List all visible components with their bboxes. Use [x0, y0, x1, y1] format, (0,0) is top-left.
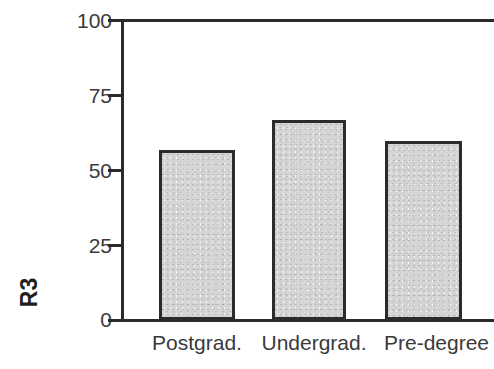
plot-area	[124, 21, 494, 320]
y-tick-label-75: 75	[48, 85, 112, 106]
bar-pre-degree	[385, 141, 462, 320]
y-tick-label-25: 25	[48, 235, 112, 256]
y-tick-label-100: 100	[48, 10, 112, 31]
x-tick-label-undergrad: Undergrad.	[248, 330, 380, 356]
x-tick-label-postgrad: Postgrad.	[136, 330, 258, 356]
bar-chart-figure: R3 100 75 50 25 0 Postgrad. Undergrad. P…	[0, 0, 494, 369]
y-tick-label-0: 0	[48, 309, 112, 330]
y-tick-label-50: 50	[48, 160, 112, 181]
x-axis-tick-labels: Postgrad. Undergrad. Pre-degree	[124, 330, 494, 366]
x-tick-label-pre-degree: Pre-degree	[369, 330, 494, 356]
bar-undergrad	[272, 120, 346, 320]
bar-postgrad	[159, 150, 235, 320]
y-axis-tick-labels: 100 75 50 25 0	[40, 0, 112, 369]
